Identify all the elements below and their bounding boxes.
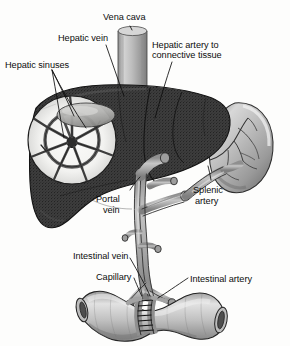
label-splenic-artery-line1: Splenic [193,185,223,195]
label-hepatic-artery-line2: connective tissue [152,50,222,60]
label-intestinal-artery: Intestinal artery [190,274,252,284]
label-splenic-artery-line2: artery [195,196,218,206]
label-hepatic-artery-line1: Hepatic artery to [152,40,219,50]
label-portal-vein-line2: vein [103,205,120,215]
hepatic-portal-circulation-figure: Vena cava Hepatic vein Hepatic artery to… [0,0,290,346]
label-hepatic-sinuses: Hepatic sinuses [5,60,69,70]
label-capillary: Capillary [96,272,131,282]
label-vena-cava: Vena cava [103,12,145,22]
label-hepatic-vein: Hepatic vein [58,33,108,43]
label-intestinal-vein: Intestinal vein [73,251,128,261]
anatomical-illustration [0,0,290,346]
label-portal-vein-line1: Portal [96,194,120,204]
